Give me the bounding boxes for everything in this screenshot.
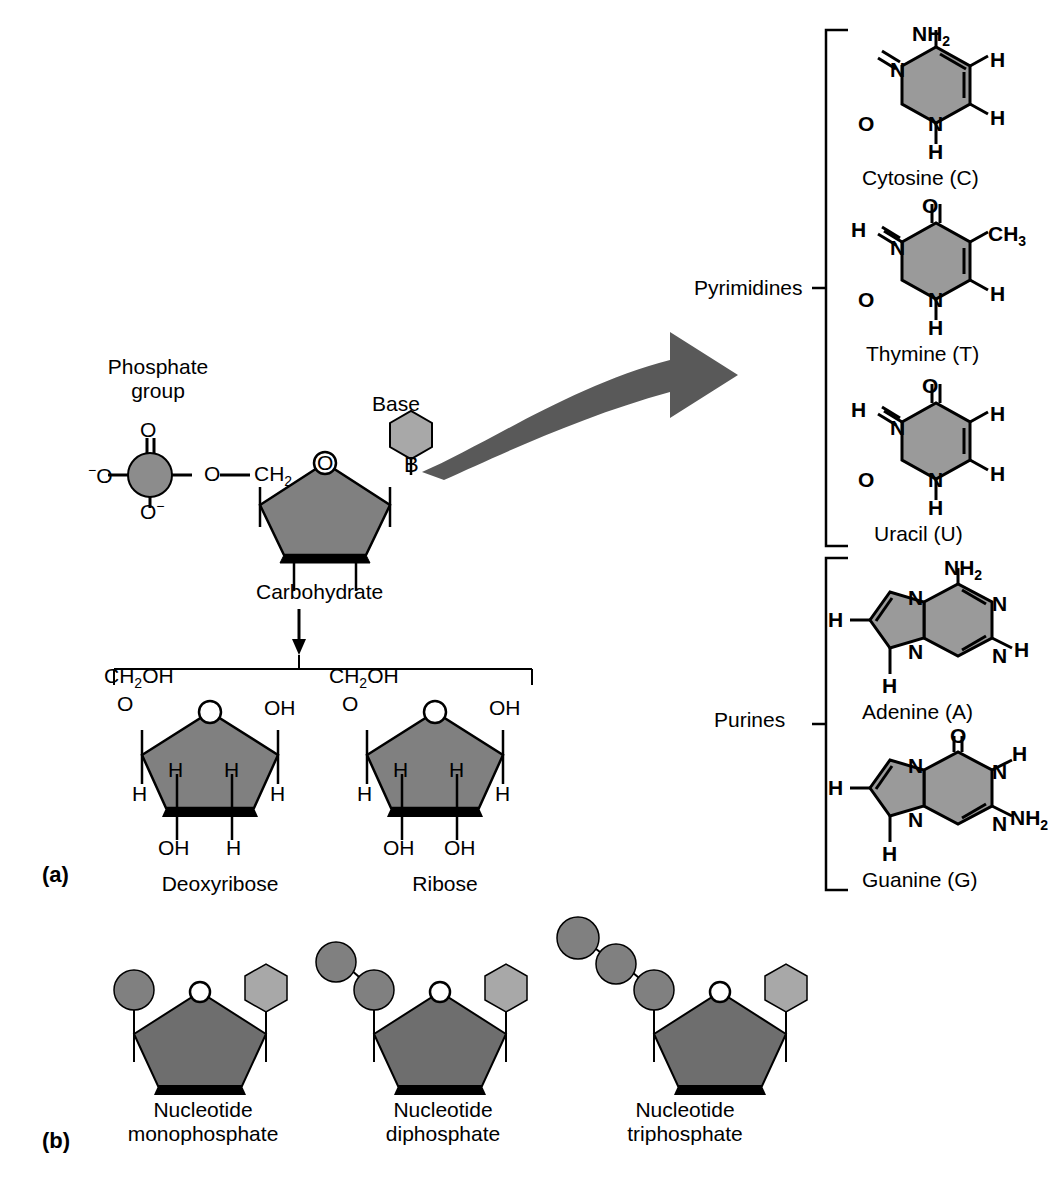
guanine-nh-sub: 2 [1040, 817, 1048, 833]
panel-b-letter: (b) [42, 1128, 70, 1154]
phosphate-group-label-line1: Phosphate [88, 355, 228, 379]
adenine-h8-label: H [828, 608, 843, 632]
diphosphate-sugar-front-edge [394, 1086, 486, 1095]
curved-arrow-shape [422, 332, 738, 480]
ribose-c2-oh-label: OH [444, 836, 476, 860]
ribose-c2-h-label: H [449, 758, 464, 782]
phosphate-circle-3 [557, 917, 599, 959]
cytosine-nh: NH [912, 22, 942, 45]
cytosine-n3-label: N [890, 58, 905, 82]
thymine-carbonyl-top-label: O [922, 194, 938, 218]
triphosphate-label-line1: Nucleotide [560, 1098, 810, 1122]
guanine-nh: NH [1010, 806, 1040, 829]
pyrimidines-bracket [812, 28, 852, 548]
uracil-h5-bond [970, 412, 988, 422]
phosphate-left-charge: − [88, 462, 96, 478]
ribose-c3-h-label: H [393, 758, 408, 782]
deoxyribose-c1-h-label: H [270, 782, 285, 806]
thymine-carbonyl-o-label: O [858, 288, 874, 312]
carbohydrate-arrow-head [292, 639, 306, 655]
thymine-ch3-sub: 3 [1018, 233, 1026, 249]
phosphate-group-label: Phosphate group [88, 355, 228, 402]
triphosphate-label-line2: triphosphate [560, 1122, 810, 1146]
uracil-h5-label: H [990, 402, 1005, 426]
phosphorus-circle [128, 453, 172, 497]
phosphate-bottom-oxygen-label: O− [140, 498, 165, 524]
cytosine-carbonyl-o-label: O [858, 112, 874, 136]
thymine-h6-label: H [990, 282, 1005, 306]
expansion-arrow [420, 320, 770, 490]
deoxyribose-name-label: Deoxyribose [110, 872, 330, 896]
base-letter-label: B [404, 452, 419, 478]
adenine-name-label: Adenine (A) [862, 700, 973, 724]
thymine-methyl-bond [970, 232, 988, 242]
cytosine-nh-sub: 2 [942, 33, 950, 49]
carbohydrate-label: Carbohydrate [256, 580, 383, 604]
nucleotide-diphosphate-structure [320, 948, 550, 1098]
monophosphate-sugar-front-edge [154, 1086, 246, 1095]
uracil-n1h-label: H [928, 496, 943, 520]
triphosphate-base-hexagon [765, 964, 807, 1012]
ribose-ring-oxygen-label: O [342, 692, 358, 716]
thymine-methyl-label: CH3 [988, 222, 1026, 249]
guanine-amino-label: NH2 [1010, 806, 1048, 833]
phosphate-group-label-line2: group [88, 379, 228, 403]
cytosine-n1-label: N [928, 112, 943, 136]
diphosphate-label: Nucleotide diphosphate [318, 1098, 568, 1145]
deoxyribose-c3-h-label: H [168, 758, 183, 782]
uracil-name-label: Uracil (U) [874, 522, 963, 546]
deoxyribose-oh: OH [142, 664, 174, 687]
thymine-n1-label: N [928, 288, 943, 312]
adenine-nh: NH [944, 556, 974, 579]
adenine-n9h-label: H [882, 674, 897, 698]
monophosphate-ring-oxygen-circle [190, 982, 210, 1002]
cytosine-h6-bond [970, 104, 988, 114]
phosphate-left-oxygen-label: −O [88, 462, 113, 488]
deoxyribose-c5-group-label: CH2OH [104, 664, 174, 691]
adenine-n9-label: N [908, 640, 923, 664]
adenine-n3-label: N [992, 644, 1007, 668]
adenine-nh-sub: 2 [974, 567, 982, 583]
cytosine-amino-label: NH2 [912, 22, 950, 49]
thymine-n3-label: N [890, 236, 905, 260]
guanine-h8-label: H [828, 776, 843, 800]
deoxyribose-c3-oh-label: OH [158, 836, 190, 860]
deoxyribose-ring-oxygen-label: O [117, 692, 133, 716]
phosphate-bottom-oxygen: O [140, 500, 156, 523]
guanine-name-label: Guanine (G) [862, 868, 978, 892]
ribose-c3-oh-label: OH [383, 836, 415, 860]
monophosphate-label-line1: Nucleotide [78, 1098, 328, 1122]
monophosphate-sugar-pentagon [134, 992, 266, 1086]
guanine-carbonyl-o-label: O [950, 724, 966, 748]
deoxyribose-ch2: CH [104, 664, 134, 687]
uracil-h6-bond [970, 460, 988, 470]
nucleotide-structure [70, 405, 470, 605]
uracil-carbonyl-o-label: O [858, 468, 874, 492]
ribose-c1-h-label: H [495, 782, 510, 806]
ribose-c1-oh-label: OH [489, 696, 521, 720]
ribose-ch2-sub: 2 [359, 675, 367, 691]
phosphate-circle-2 [596, 944, 636, 984]
nucleotide-monophosphate-structure [100, 968, 310, 1098]
ribose-c5-group-label: CH2OH [329, 664, 399, 691]
base-label: Base [372, 392, 420, 416]
adenine-n7-label: N [908, 586, 923, 610]
deoxyribose-c2-h-label: H [224, 758, 239, 782]
deoxyribose-c5-h-label: H [132, 782, 147, 806]
phosphate-bottom-charge: − [156, 498, 164, 514]
nucleotide-triphosphate-structure [540, 928, 820, 1098]
pyrimidines-group-label: Pyrimidines [694, 276, 803, 300]
thymine-ch3: CH [988, 222, 1018, 245]
deoxyribose-structure [120, 700, 320, 850]
diphosphate-label-line2: diphosphate [318, 1122, 568, 1146]
diphosphate-ring-oxygen-circle [430, 982, 450, 1002]
guanine-n7-label: N [908, 754, 923, 778]
deoxyribose-c1-oh-label: OH [264, 696, 296, 720]
adenine-pyrimidine-ring [924, 584, 992, 656]
adenine-amino-label: NH2 [944, 556, 982, 583]
ribose-c5-h-label: H [357, 782, 372, 806]
adenine-n1-label: N [992, 592, 1007, 616]
diphosphate-label-line1: Nucleotide [318, 1098, 568, 1122]
deoxyribose-pentagon [142, 712, 278, 808]
cytosine-h5-label: H [990, 48, 1005, 72]
